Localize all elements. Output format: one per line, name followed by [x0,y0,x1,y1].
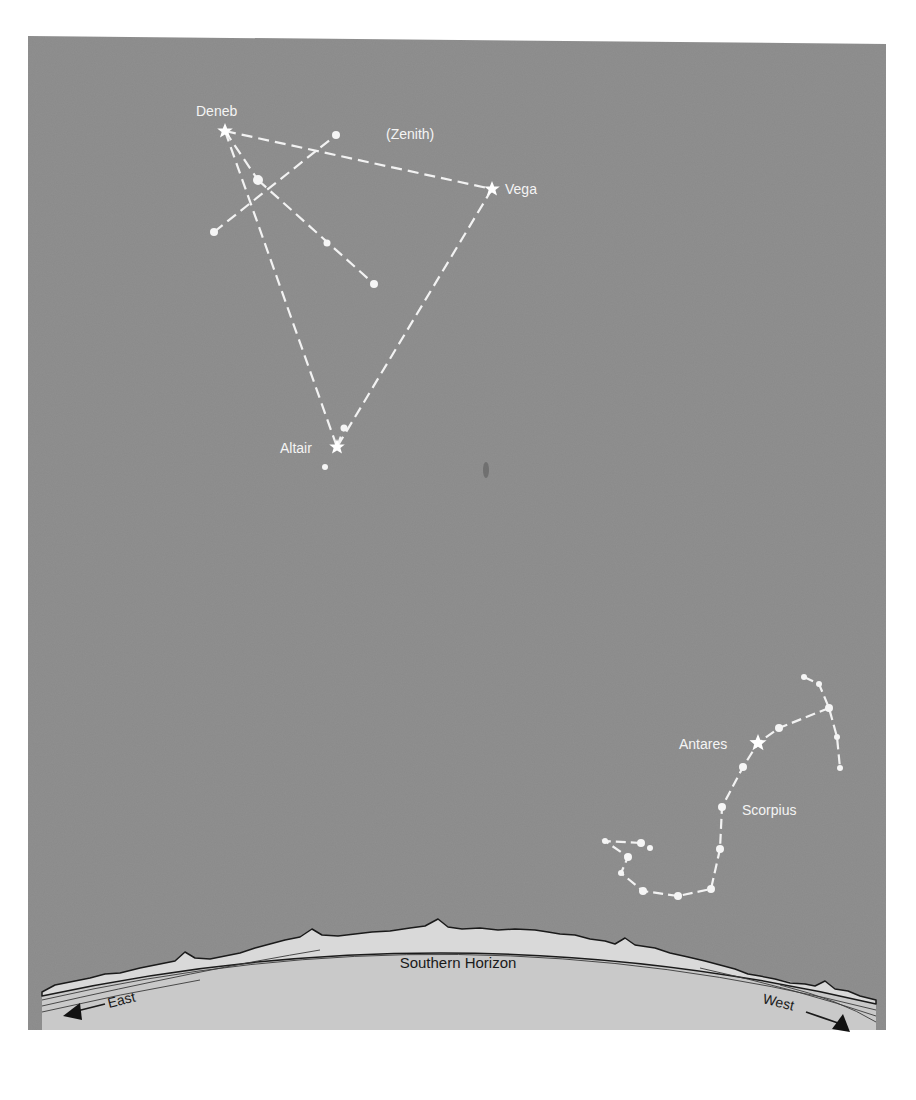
star-dot [674,892,682,900]
deneb-label: Deneb [196,103,237,119]
star-dot [825,704,833,712]
star-dot [637,839,645,847]
star-dot [332,131,340,139]
vega-label: Vega [505,181,537,197]
antares-label: Antares [679,736,727,752]
scorpius-label: Scorpius [742,802,796,818]
print-blemish [483,462,489,478]
star-dot [210,228,218,236]
star-dot [716,845,724,853]
star-dot [837,765,843,771]
star-dot [718,803,726,811]
star-chart: Deneb (Zenith) Vega Altair Antares Scorp… [0,0,916,1100]
star-dot [324,240,331,247]
altair-label: Altair [280,440,312,456]
star-dot [816,681,822,687]
star-dot [775,724,783,732]
star-dot [624,853,632,861]
zenith-label: (Zenith) [386,126,434,142]
star-dot [322,464,328,470]
star-dot [639,887,647,895]
star-dot [801,674,807,680]
star-dot [341,425,348,432]
star-dot [834,734,840,740]
star-dot [253,175,263,185]
star-dot [647,845,653,851]
sky-grain [28,36,886,1030]
star-dot [618,870,624,876]
star-dot [739,763,747,771]
star-dot [602,838,608,844]
star-dot [707,885,715,893]
star-dot [370,280,378,288]
southern-horizon-label: Southern Horizon [400,954,517,971]
